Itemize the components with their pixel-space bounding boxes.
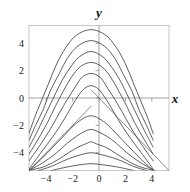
y-tick-label: −4 bbox=[13, 147, 24, 158]
y-tick-label: −2 bbox=[13, 120, 24, 131]
contour-plot: −4−2024 −4−2024 y x bbox=[0, 0, 190, 192]
plot-canvas: −4−2024 −4−2024 y x bbox=[0, 0, 190, 192]
x-tick-label: 2 bbox=[123, 173, 128, 184]
x-tick-label: −2 bbox=[67, 173, 78, 184]
y-tick-label: 0 bbox=[19, 93, 24, 104]
y-axis-label: y bbox=[94, 5, 102, 20]
y-tick-label: 4 bbox=[19, 38, 24, 49]
x-tick-label: 4 bbox=[149, 173, 154, 184]
plot-background bbox=[0, 0, 190, 192]
x-axis-label: x bbox=[171, 91, 179, 106]
y-tick-label: 2 bbox=[19, 65, 24, 76]
x-tick-label: 0 bbox=[97, 173, 102, 184]
x-tick-label: −4 bbox=[41, 173, 52, 184]
